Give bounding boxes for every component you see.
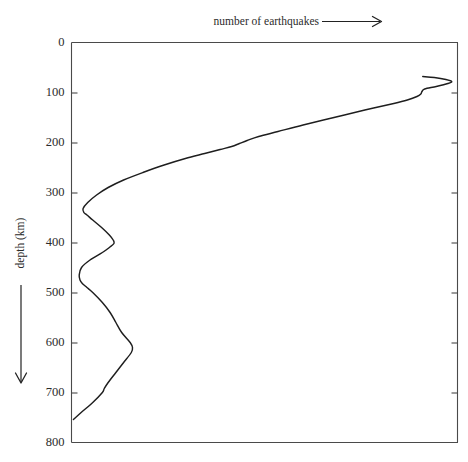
y-tick-label-300: 300 [46,185,65,199]
x-axis-label: number of earthquakes [214,15,320,28]
y-axis-label: depth (km) [14,217,27,268]
y-tick-label-0: 0 [58,35,64,49]
y-tick-label-700: 700 [46,385,65,399]
earthquake-frequency-curve [73,77,451,420]
y-tick-label-800: 800 [46,435,65,449]
y-tick-label-200: 200 [46,135,65,149]
y-tick-label-400: 400 [46,235,65,249]
earthquake-depth-chart: 0100200300400500600700800 number of eart… [0,0,468,462]
y-tick-label-600: 600 [46,335,65,349]
y-tick-label-100: 100 [46,85,65,99]
x-axis-label-group: number of earthquakes [214,15,382,28]
y-tick-label-500: 500 [46,285,65,299]
y-axis-label-group: depth (km) [14,217,27,383]
chart-canvas: 0100200300400500600700800 number of eart… [0,0,468,462]
y-axis-tick-labels: 0100200300400500600700800 [46,35,65,449]
y-axis-ticks [72,93,458,393]
